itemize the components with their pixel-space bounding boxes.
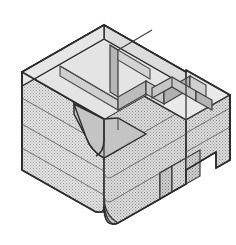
axonometric-figure: Axonometric cut-away of stepped building… bbox=[0, 0, 236, 245]
axonometric-drawing bbox=[0, 0, 236, 245]
